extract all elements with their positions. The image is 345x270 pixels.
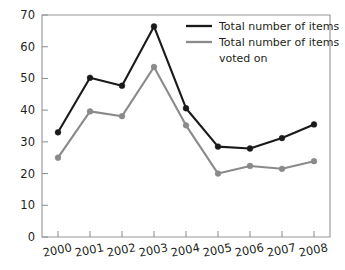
data-point-marker	[55, 129, 61, 135]
legend-item-total-items-label: Total number of items	[218, 20, 340, 33]
data-point-marker	[183, 122, 189, 128]
line-chart: 010203040506070 200020012002200320042005…	[0, 0, 345, 270]
legend-item-items-voted-on-label: Total number of items	[218, 36, 340, 49]
data-point-marker	[87, 75, 93, 81]
y-axis-tick-label: 70	[20, 8, 35, 22]
y-axis-tick-label: 40	[20, 103, 35, 117]
y-axis-tick-label: 0	[28, 230, 35, 244]
legend-item-items-voted-on-label-line2: voted on	[219, 52, 268, 65]
data-point-marker	[311, 158, 317, 164]
y-axis-tick-label: 60	[20, 40, 35, 54]
y-axis-tick-label: 10	[20, 198, 35, 212]
data-point-marker	[119, 113, 125, 119]
data-point-marker	[215, 144, 221, 150]
data-point-marker	[55, 155, 61, 161]
data-point-marker	[151, 64, 157, 70]
y-axis-tick-label: 20	[20, 167, 35, 181]
data-point-marker	[215, 171, 221, 177]
y-axis-tick-label: 30	[20, 135, 35, 149]
data-point-marker	[183, 105, 189, 111]
data-point-marker	[247, 146, 253, 152]
data-point-marker	[87, 109, 93, 115]
y-axis-tick-label: 50	[20, 71, 35, 85]
data-point-marker	[119, 83, 125, 89]
chart-canvas: 010203040506070 200020012002200320042005…	[0, 0, 345, 270]
data-point-marker	[247, 163, 253, 169]
data-point-marker	[151, 24, 157, 30]
data-point-marker	[311, 122, 317, 128]
data-point-marker	[279, 166, 285, 172]
data-point-marker	[279, 135, 285, 141]
